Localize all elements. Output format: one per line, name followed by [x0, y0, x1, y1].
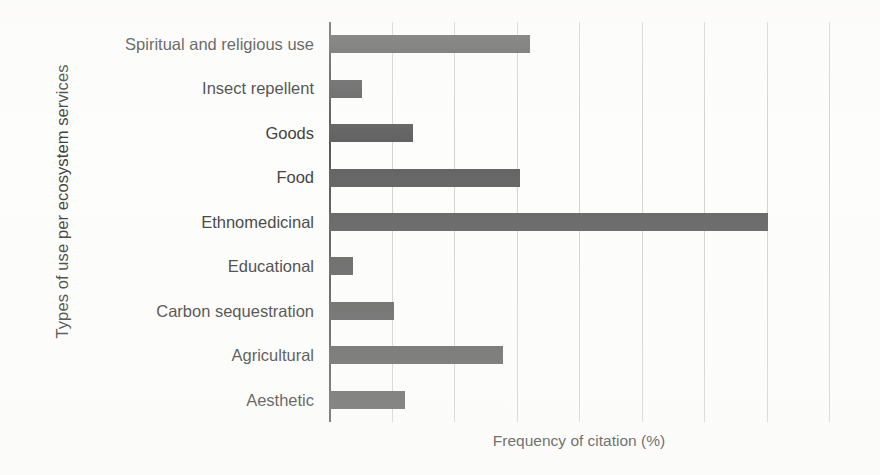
bar [329, 257, 353, 275]
bar [329, 124, 413, 142]
category-label: Ethnomedicinal [201, 200, 314, 244]
bar [329, 302, 394, 320]
bar [329, 213, 768, 231]
category-label: Educational [228, 244, 314, 288]
category-label: Aesthetic [246, 378, 314, 422]
category-label: Carbon sequestration [156, 289, 314, 333]
category-label: Agricultural [231, 333, 314, 377]
bar [329, 35, 530, 53]
plot-area [329, 22, 829, 422]
category-label: Food [276, 155, 314, 199]
category-label: Goods [265, 111, 314, 155]
category-labels-group: Spiritual and religious useInsect repell… [60, 22, 322, 422]
x-axis-title: Frequency of citation (%) [329, 432, 829, 450]
bar [329, 80, 362, 98]
bar [329, 391, 405, 409]
category-label: Insect repellent [202, 66, 314, 110]
gridline-40 [829, 22, 830, 422]
bars-group [329, 22, 829, 422]
category-label: Spiritual and religious use [125, 22, 314, 66]
bar [329, 346, 503, 364]
bar [329, 169, 520, 187]
bar-chart-figure: Types of use per ecosystem services Spir… [0, 0, 880, 475]
